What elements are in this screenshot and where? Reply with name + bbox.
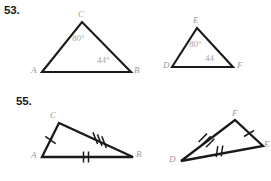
vertex-label-a: A	[31, 66, 37, 75]
problem-number-55: 55.	[16, 96, 31, 108]
vertex-label-b: B	[134, 66, 140, 75]
angle-label-b-44: 44°	[97, 56, 110, 65]
tick-marks-df-3	[199, 134, 215, 148]
tick-marks-ac-1	[45, 136, 55, 143]
tick-marks-de-2	[216, 146, 223, 158]
vertex-label-c-2: C	[50, 111, 56, 120]
tick-marks-ab-2	[84, 152, 89, 163]
vertex-label-c: C	[78, 10, 84, 19]
triangle-def-outline	[172, 28, 233, 67]
vertex-label-d: D	[163, 61, 170, 70]
triangle-acb-outline	[42, 123, 133, 157]
vertex-label-d-2: D	[169, 155, 176, 164]
angle-label-c-80: 80°	[72, 34, 85, 43]
angle-label-e-80: 80°	[189, 40, 202, 49]
vertex-label-e: E	[193, 16, 199, 25]
triangle-dfe-outline	[181, 120, 263, 161]
vertex-label-e-2: E	[264, 140, 270, 149]
vertex-label-f-2: F	[232, 109, 238, 118]
tick-marks-cb-3	[93, 132, 106, 148]
tick-marks-fe-1	[244, 131, 254, 137]
vertex-label-a-2: A	[31, 151, 37, 160]
problem-number-53: 53.	[4, 5, 19, 17]
triangle-abc-outline	[42, 22, 131, 72]
worksheet-page: 53. A C B 80° 44° D E F 80° 44 55.	[0, 0, 271, 181]
vertex-label-f: F	[237, 61, 243, 70]
vertex-label-b-2: B	[136, 150, 142, 159]
angle-label-f-44: 44	[205, 54, 214, 63]
